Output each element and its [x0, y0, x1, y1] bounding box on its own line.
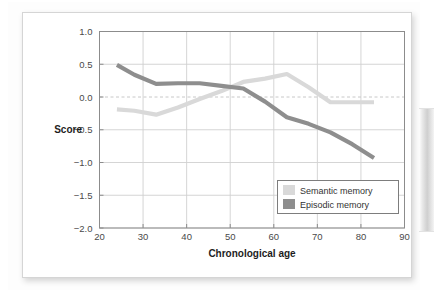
legend-swatch-episodic-memory [283, 199, 295, 209]
legend-label-semantic-memory: Semantic memory [300, 186, 373, 196]
data-series-group [117, 65, 374, 158]
x-tick-label: 70 [312, 231, 323, 242]
y-tick-label: 1.0 [79, 26, 92, 37]
y-tick-label: −1.5 [74, 190, 93, 201]
legend-label-episodic-memory: Episodic memory [300, 200, 370, 210]
x-tick-label: 20 [94, 231, 105, 242]
series-line-semantic-memory [117, 74, 374, 115]
y-tick-label: 0.0 [79, 92, 92, 103]
x-tick-label: 90 [399, 231, 410, 242]
y-tick-label: −2.0 [74, 223, 93, 234]
y-tick-label: −1.0 [74, 157, 93, 168]
series-line-episodic-memory [117, 65, 374, 158]
x-axis-title: Chronological age [208, 248, 296, 259]
line-chart: 2030405060708090 1.00.50.0−0.5−1.0−1.5−2… [0, 0, 434, 294]
legend-swatch-semantic-memory [283, 185, 295, 195]
x-axis-tick-labels: 2030405060708090 [94, 231, 410, 242]
x-tick-label: 30 [138, 231, 149, 242]
y-tick-label: 0.5 [79, 59, 92, 70]
x-tick-label: 40 [181, 231, 192, 242]
x-tick-label: 60 [268, 231, 279, 242]
x-tick-label: 50 [225, 231, 236, 242]
figure-root: 2030405060708090 1.00.50.0−0.5−1.0−1.5−2… [0, 0, 434, 294]
chart-legend: Semantic memory Episodic memory [278, 181, 399, 214]
y-axis-title: Score [54, 124, 82, 135]
x-tick-label: 80 [356, 231, 367, 242]
chart-canvas: 2030405060708090 1.00.50.0−0.5−1.0−1.5−2… [0, 0, 434, 294]
